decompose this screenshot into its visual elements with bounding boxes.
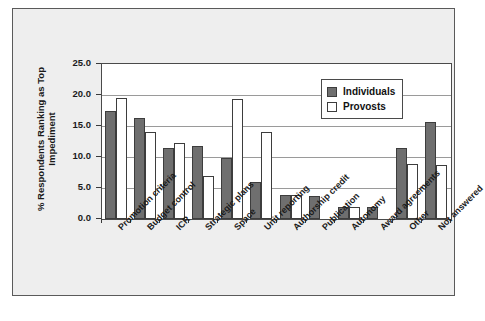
y-tick-label: 10.0	[47, 150, 91, 161]
legend-item-individuals: Individuals	[327, 84, 395, 99]
bar-group	[422, 64, 451, 219]
legend-swatch-provosts	[327, 102, 337, 112]
bar-provosts	[261, 132, 272, 219]
bar-provosts	[203, 176, 214, 219]
bar-provosts	[116, 98, 127, 219]
x-tick-mark	[101, 219, 102, 223]
bar-group	[189, 64, 218, 219]
chart-card: % Respondents Ranking as Top Impediment …	[12, 8, 455, 296]
y-tick-label: 0.0	[47, 212, 91, 223]
chart-legend: Individuals Provosts	[321, 79, 403, 119]
bar-individuals	[105, 111, 116, 219]
y-tick-label: 15.0	[47, 119, 91, 130]
legend-label-individuals: Individuals	[343, 86, 395, 97]
y-axis-title-container: % Respondents Ranking as Top Impediment	[29, 49, 63, 229]
bar-group	[247, 64, 276, 219]
y-axis-title: % Respondents Ranking as Top Impediment	[29, 49, 63, 229]
legend-swatch-individuals	[327, 87, 337, 97]
y-tick-label: 20.0	[47, 88, 91, 99]
legend-label-provosts: Provosts	[343, 101, 386, 112]
bar-group	[102, 64, 131, 219]
legend-item-provosts: Provosts	[327, 99, 395, 114]
y-tick-label: 5.0	[47, 181, 91, 192]
y-tick-label: 25.0	[47, 57, 91, 68]
